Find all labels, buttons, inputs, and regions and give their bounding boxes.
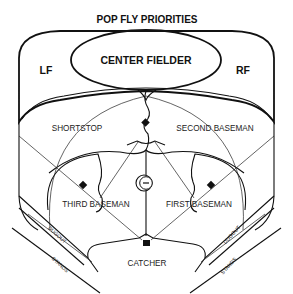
right-fielder-label: RF bbox=[236, 64, 251, 76]
second-base-notch bbox=[127, 141, 165, 145]
pop-fly-priorities-diagram: POP FLY PRIORITIES CENTER FIELDER LF RF … bbox=[0, 0, 293, 294]
home-plate-icon bbox=[143, 240, 150, 246]
center-fielder-label: CENTER FIELDER bbox=[100, 54, 191, 66]
pitchers-mound-icon bbox=[136, 175, 152, 191]
right-stands-label: STANDS bbox=[219, 256, 238, 276]
left-stands-label: STANDS bbox=[51, 255, 71, 274]
left-dugout-line bbox=[19, 208, 84, 265]
outfield-boundary bbox=[19, 31, 274, 122]
right-dugout-inner bbox=[201, 214, 265, 262]
catcher-label: CATCHER bbox=[128, 259, 167, 268]
first-base-icon bbox=[207, 181, 215, 189]
third-baseman-label: THIRD BASEMAN bbox=[62, 200, 129, 209]
second-baseman-label: SECOND BASEMAN bbox=[176, 124, 253, 133]
shortstop-label: SHORTSTOP bbox=[52, 124, 103, 133]
second-base-icon bbox=[141, 118, 149, 126]
diagram-title: POP FLY PRIORITIES bbox=[97, 14, 198, 25]
right-dugout-label: DUGOUT bbox=[222, 224, 242, 245]
second-to-third bbox=[100, 142, 138, 198]
first-baseman-label: FIRST BASEMAN bbox=[166, 200, 232, 209]
outfield-inner-edge bbox=[22, 88, 271, 119]
left-fielder-label: LF bbox=[40, 64, 53, 76]
second-to-first bbox=[155, 142, 194, 198]
center-divider bbox=[144, 91, 149, 236]
